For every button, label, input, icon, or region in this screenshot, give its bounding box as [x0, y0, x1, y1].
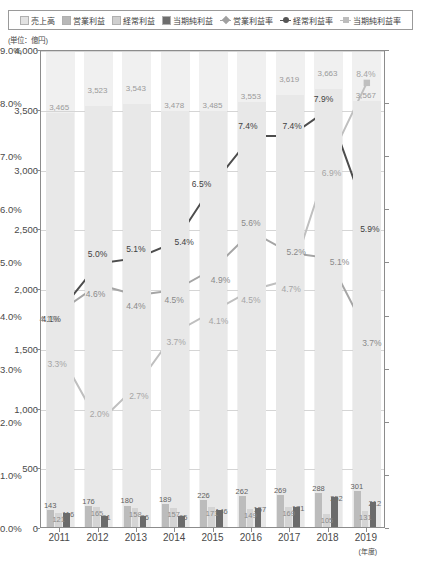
- x-axis-tick-label: 2018: [316, 532, 338, 543]
- point-label-ordinary-margin: 5.9%: [360, 224, 379, 234]
- bar-label-operating-profit: 226: [197, 491, 210, 500]
- legend-item: 経常利益: [112, 15, 155, 26]
- bar-label-net-profit: 91: [102, 513, 110, 522]
- square-swatch-icon: [62, 16, 71, 25]
- point-label-net-margin: 4.5%: [241, 295, 260, 305]
- bar-label-operating-profit: 301: [351, 482, 364, 491]
- point-label-net-margin: 3.7%: [166, 337, 185, 347]
- bar-label-net-profit: 146: [215, 507, 228, 516]
- bar-label-ordinary-profit: 105: [321, 516, 334, 525]
- bar-label-ordinary-profit: 131: [359, 513, 372, 522]
- x-axis-tick-label: 2014: [163, 532, 185, 543]
- bar-label-net-profit: 171: [292, 504, 305, 513]
- legend-item-label: 当期純利益: [173, 15, 213, 26]
- point-label-net-margin: 3.3%: [47, 359, 66, 369]
- bar-label-sales: 3,523: [87, 86, 107, 95]
- x-axis-tickmark: [328, 528, 329, 532]
- y-axis-right-tick-label: 0.0%: [0, 523, 31, 534]
- x-axis-unit-note: (年度): [358, 546, 377, 556]
- y-axis-right-tickmark: [385, 422, 389, 423]
- point-label-operating-margin: 5.1%: [330, 257, 349, 267]
- x-axis-tick-label: 2015: [201, 532, 223, 543]
- y-axis-right-tickmark: [385, 369, 389, 370]
- point-label-net-margin: 6.9%: [322, 168, 341, 178]
- y-axis-left-tickmark: [36, 170, 40, 171]
- point-label-operating-margin: 4.9%: [211, 275, 230, 285]
- point-label-operating-margin: 3.7%: [362, 338, 381, 348]
- legend-item-label: 経常利益率: [293, 15, 333, 26]
- bar-label-operating-profit: 189: [159, 495, 172, 504]
- legend-item: 当期純利益: [162, 15, 213, 26]
- point-label-net-margin: 8.4%: [356, 69, 375, 79]
- bar-sales: [161, 111, 189, 527]
- y-axis-right-tick-label: 8.0%: [0, 98, 31, 109]
- x-axis-tickmark: [366, 528, 367, 532]
- bar-label-operating-profit: 180: [121, 496, 134, 505]
- diamond-marker-icon: [220, 16, 231, 25]
- point-label-ordinary-margin: 5.4%: [174, 237, 193, 247]
- y-axis-left-tickmark: [36, 468, 40, 469]
- bar-sales: [123, 104, 151, 527]
- bar-sales: [276, 95, 304, 527]
- legend-item: 経常利益率: [280, 15, 333, 26]
- bar-label-net-profit: 212: [369, 499, 382, 508]
- x-axis-tickmark: [213, 528, 214, 532]
- bar-label-operating-profit: 269: [274, 486, 287, 495]
- chart-page: 売上高営業利益経常利益当期純利益営業利益率経常利益率当期純利益率 (単位：億円)…: [0, 0, 423, 562]
- y-axis-left-tick-label: 2,500: [0, 224, 38, 235]
- x-axis-tickmark: [98, 528, 99, 532]
- bar-label-net-profit: 252: [330, 494, 343, 503]
- circle-marker-icon: [280, 16, 291, 25]
- legend-item: 営業利益率: [220, 15, 273, 26]
- point-label-ordinary-margin: 6.5%: [192, 179, 211, 189]
- bar-sales: [353, 101, 381, 527]
- y-axis-right-tick-label: 9.0%: [0, 45, 31, 56]
- x-axis-tick-label: 2011: [48, 532, 70, 543]
- y-axis-left-tick-label: 1,500: [0, 343, 38, 354]
- bar-label-net-profit: 116: [62, 510, 74, 519]
- bar-label-net-profit: 96: [141, 513, 149, 522]
- y-axis-right-tick-label: 3.0%: [0, 363, 31, 374]
- point-label-net-margin: 4.7%: [281, 284, 300, 294]
- legend-item-label: 経常利益: [123, 15, 155, 26]
- bar-label-operating-profit: 262: [236, 487, 249, 496]
- point-label-operating-margin: 4.6%: [86, 289, 105, 299]
- square-swatch-icon: [20, 16, 29, 25]
- point-label-ordinary-margin: 5.0%: [88, 249, 107, 259]
- point-label-operating-margin: 4.1%: [39, 314, 58, 324]
- y-axis-right-tickmark: [385, 528, 389, 529]
- x-axis-tickmark: [251, 528, 252, 532]
- legend-item: 当期純利益率: [340, 15, 401, 26]
- y-axis-left-tickmark: [36, 229, 40, 230]
- point-label-operating-margin: 4.4%: [126, 301, 145, 311]
- y-axis-right-tickmark: [385, 475, 389, 476]
- y-axis-right-tickmark: [385, 262, 389, 263]
- bar-label-operating-profit: 176: [82, 497, 95, 506]
- y-axis-left-tickmark: [36, 289, 40, 290]
- x-axis-tick-label: 2012: [86, 532, 108, 543]
- x-axis-tick-label: 2019: [355, 532, 377, 543]
- bar-label-sales: 3,485: [202, 101, 222, 110]
- x-axis-tick-label: 2016: [240, 532, 262, 543]
- bar-label-sales: 3,567: [356, 91, 376, 100]
- x-axis-tickmark: [289, 528, 290, 532]
- x-axis-tick-label: 2017: [278, 532, 300, 543]
- point-label-ordinary-margin: 7.4%: [238, 121, 257, 131]
- y-axis-right-tick-label: 6.0%: [0, 204, 31, 215]
- x-axis-tick-label: 2013: [125, 532, 147, 543]
- bar-label-sales: 3,619: [279, 75, 299, 84]
- point-label-ordinary-margin: 7.4%: [282, 121, 301, 131]
- y-axis-left-tick-label: 2,000: [0, 284, 38, 295]
- y-axis-right-tickmark: [385, 209, 389, 210]
- bar-sales: [238, 102, 266, 527]
- bar-label-sales: 3,465: [49, 103, 69, 112]
- legend-item-label: 営業利益率: [233, 15, 273, 26]
- bar-label-sales: 3,543: [126, 84, 146, 93]
- legend-item: 売上高: [20, 15, 55, 26]
- y-axis-right-tickmark: [385, 156, 389, 157]
- y-axis-right-tick-label: 1.0%: [0, 469, 31, 480]
- point-label-net-margin: 2.7%: [129, 391, 148, 401]
- y-axis-left-tick-label: 1,000: [0, 403, 38, 414]
- y-axis-left-tick-label: 3,000: [0, 164, 38, 175]
- bar-label-sales: 3,478: [164, 101, 184, 110]
